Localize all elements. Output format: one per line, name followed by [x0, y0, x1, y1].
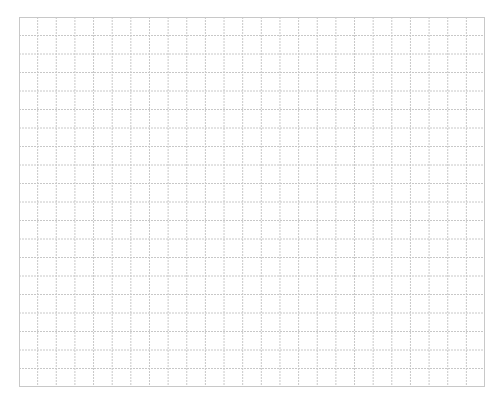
- grid-lines: [19, 17, 485, 387]
- grid-paper: [19, 17, 485, 387]
